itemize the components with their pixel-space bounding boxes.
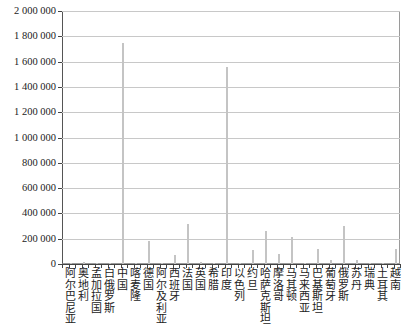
- bar-chart: 0200 000400 000600 000800 0001 000 0001 …: [0, 0, 405, 329]
- x-tick-label: 马其顿: [285, 268, 297, 303]
- y-tick: [58, 239, 62, 240]
- bar: [135, 263, 137, 264]
- bar: [278, 254, 280, 264]
- x-tick-label: 巴基斯坦: [311, 268, 323, 314]
- y-tick: [58, 87, 62, 88]
- x-tick-label: 孟加拉国: [90, 268, 102, 314]
- gridline: [62, 213, 400, 214]
- bar: [395, 249, 397, 264]
- x-tick-label: 德国: [142, 268, 154, 291]
- y-tick-label: 1 800 000: [14, 30, 56, 42]
- bar: [109, 263, 111, 264]
- gridline: [62, 138, 400, 139]
- gridline: [62, 163, 400, 164]
- x-tick-label: 苏丹: [350, 268, 362, 291]
- y-tick-label: 600 000: [22, 182, 56, 194]
- gridline: [62, 239, 400, 240]
- bar: [174, 255, 176, 264]
- y-tick-label: 2 000 000: [14, 5, 56, 17]
- x-tick-label: 约旦: [246, 268, 258, 291]
- bar: [291, 237, 293, 264]
- bar: [200, 262, 202, 264]
- y-tick-label: 400 000: [22, 207, 56, 219]
- gridline: [62, 11, 400, 12]
- x-tick-label: 奥地利: [77, 268, 89, 303]
- y-tick: [58, 213, 62, 214]
- y-tick: [58, 11, 62, 12]
- bar: [382, 263, 384, 264]
- x-tick: [62, 264, 63, 268]
- bar: [252, 250, 254, 264]
- x-tick-label: 马来西亚: [298, 268, 310, 314]
- y-tick-label: 1 000 000: [14, 132, 56, 144]
- x-tick-label: 白俄罗斯: [103, 268, 115, 314]
- x-tick-label: 葡萄牙: [324, 268, 336, 303]
- gridline: [62, 36, 400, 37]
- x-tick-label: 以色列: [233, 268, 245, 303]
- y-tick-label: 1 200 000: [14, 106, 56, 118]
- y-tick-label: 0: [51, 258, 56, 270]
- x-tick-label: 希腊: [207, 268, 219, 291]
- y-tick: [58, 36, 62, 37]
- bar: [304, 263, 306, 264]
- bar: [369, 263, 371, 264]
- bar: [226, 67, 228, 264]
- x-tick-label: 阿尔及利亚: [155, 268, 167, 326]
- x-tick-label: 法国: [181, 268, 193, 291]
- bar: [122, 43, 124, 264]
- y-tick-label: 1 400 000: [14, 81, 56, 93]
- y-tick-label: 200 000: [22, 233, 56, 245]
- bar: [83, 262, 85, 264]
- bar: [356, 260, 358, 264]
- bar: [148, 241, 150, 264]
- y-tick-label: 1 600 000: [14, 56, 56, 68]
- gridline: [62, 112, 400, 113]
- bar: [317, 249, 319, 264]
- x-tick-label: 越南: [389, 268, 401, 291]
- gridline: [62, 62, 400, 63]
- gridline: [62, 188, 400, 189]
- y-tick: [58, 188, 62, 189]
- bar: [96, 263, 98, 264]
- x-tick-label: 摩洛哥: [272, 268, 284, 303]
- y-tick: [58, 138, 62, 139]
- bar: [161, 263, 163, 264]
- y-tick: [58, 163, 62, 164]
- x-tick-label: 中国: [116, 268, 128, 291]
- y-tick: [58, 62, 62, 63]
- x-tick-label: 阿尔巴尼亚: [64, 268, 76, 326]
- bar: [343, 226, 345, 264]
- x-tick-label: 土耳其: [376, 268, 388, 303]
- y-tick: [58, 112, 62, 113]
- x-tick-label: 英国: [194, 268, 206, 291]
- x-tick-label: 哈萨克斯坦: [259, 268, 271, 326]
- x-tick-label: 印度: [220, 268, 232, 291]
- bar: [239, 263, 241, 264]
- bar: [70, 263, 72, 264]
- x-tick-label: 喀麦隆: [129, 268, 141, 303]
- x-tick-label: 西班牙: [168, 268, 180, 303]
- bar: [330, 260, 332, 264]
- bar: [213, 263, 215, 264]
- x-tick-label: 瑞典: [363, 268, 375, 291]
- y-tick-label: 800 000: [22, 157, 56, 169]
- bar: [187, 224, 189, 264]
- bar: [265, 231, 267, 264]
- gridline: [62, 87, 400, 88]
- x-tick-label: 俄罗斯: [337, 268, 349, 303]
